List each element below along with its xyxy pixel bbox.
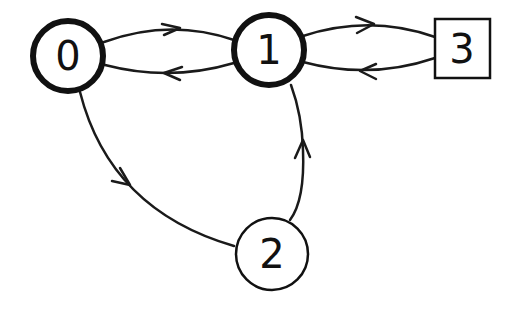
node-1-label: 1 bbox=[256, 27, 281, 73]
edge-0-to-2 bbox=[80, 92, 234, 246]
edge-3-to-1 bbox=[303, 58, 435, 79]
node-1: 1 bbox=[234, 15, 304, 85]
edge-0-to-1 bbox=[104, 24, 234, 42]
edge-1-to-0 bbox=[105, 63, 234, 80]
node-3: 3 bbox=[435, 19, 490, 78]
node-0-label: 0 bbox=[55, 33, 80, 79]
edge-1-to-3 bbox=[303, 17, 435, 37]
state-diagram: 0 1 3 2 bbox=[0, 0, 519, 315]
node-3-label: 3 bbox=[449, 26, 474, 72]
edge-2-to-1 bbox=[290, 85, 310, 220]
node-2: 2 bbox=[236, 218, 308, 290]
node-2-label: 2 bbox=[259, 231, 284, 277]
node-0: 0 bbox=[33, 21, 103, 91]
